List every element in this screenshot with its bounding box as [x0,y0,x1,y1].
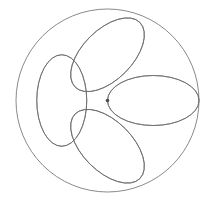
center-convergence-node [106,99,110,103]
rosette-figure [0,0,213,206]
figure-background [0,0,213,206]
rosette-canvas [0,0,213,206]
